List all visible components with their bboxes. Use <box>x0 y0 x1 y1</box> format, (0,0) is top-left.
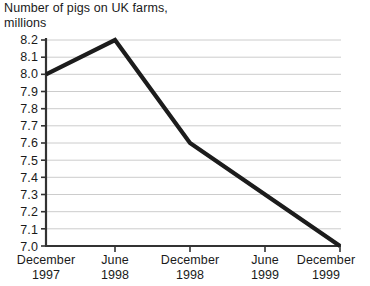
x-axis <box>45 246 341 252</box>
x-axis-tick-label-line2: 1999 <box>283 268 369 283</box>
x-axis-tick-label: December 1999 <box>283 253 369 282</box>
gridlines <box>46 40 341 229</box>
x-axis-tick-label: December 1998 <box>147 253 233 282</box>
x-axis-tick-label-line2: 1998 <box>72 268 158 283</box>
line-chart: Number of pigs on UK farms, millions 8.2… <box>0 0 370 286</box>
x-axis-tick-label: June 1998 <box>72 253 158 282</box>
x-axis-tick-label-line1: December <box>147 253 233 268</box>
x-axis-tick-label-line1: December <box>283 253 369 268</box>
plot-area <box>0 0 370 286</box>
x-axis-tick-label-line2: 1998 <box>147 268 233 283</box>
x-axis-tick-label-line1: June <box>72 253 158 268</box>
y-axis <box>41 38 46 246</box>
